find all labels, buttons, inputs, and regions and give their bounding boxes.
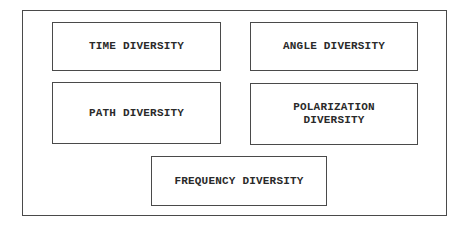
frequency-diversity-label: FREQUENCY DIVERSITY — [174, 175, 303, 188]
path-diversity-box: PATH DIVERSITY — [52, 82, 221, 144]
frequency-diversity-box: FREQUENCY DIVERSITY — [151, 156, 327, 206]
time-diversity-label: TIME DIVERSITY — [89, 40, 184, 53]
path-diversity-label: PATH DIVERSITY — [89, 107, 184, 120]
polarization-diversity-label: POLARIZATION DIVERSITY — [293, 101, 375, 127]
polarization-diversity-box: POLARIZATION DIVERSITY — [250, 83, 418, 145]
time-diversity-box: TIME DIVERSITY — [52, 22, 221, 71]
angle-diversity-box: ANGLE DIVERSITY — [250, 22, 418, 71]
angle-diversity-label: ANGLE DIVERSITY — [283, 40, 385, 53]
